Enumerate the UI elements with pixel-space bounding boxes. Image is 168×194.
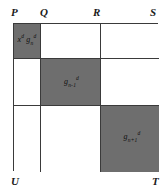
- grid-cell-r2c1: [14, 59, 41, 106]
- grid-diagram: P Q R S U T xdgnd gn-1d gn+1d: [0, 0, 168, 194]
- grid-cell-r1c3: [101, 24, 159, 59]
- vertex-label-u: U: [11, 176, 19, 187]
- cell-label-g-n-minus-1-d: gn-1d: [64, 78, 79, 86]
- cell-label-g-n-plus-1-d: gn+1d: [124, 133, 141, 141]
- grid-cell-r3c1: [14, 106, 41, 172]
- grid-cell-r1c2: [41, 24, 101, 59]
- vertex-label-r: R: [93, 7, 100, 18]
- label-sup-d: d: [21, 33, 24, 39]
- grid-cell-r2c3: [101, 59, 159, 106]
- label-sub-n: n: [31, 40, 34, 46]
- grid-cell-r1c1: xdgnd: [14, 24, 41, 59]
- vertex-label-t: T: [152, 176, 159, 187]
- label-sup-d2: d: [33, 33, 36, 39]
- vertex-label-q: Q: [40, 7, 48, 18]
- vertex-label-s: S: [150, 7, 156, 18]
- grid-cell-r3c2: [41, 106, 101, 172]
- block-grid: xdgnd gn-1d gn+1d: [13, 23, 158, 171]
- grid-cell-r2c2: gn-1d: [41, 59, 101, 106]
- label-sub-n-minus-1: n-1: [68, 82, 76, 88]
- label-sub-n-plus-1: n+1: [128, 137, 138, 143]
- grid-cell-r3c3: gn+1d: [101, 106, 159, 172]
- label-sup-d: d: [138, 130, 141, 136]
- cell-label-x-d-g-n-d: xdgnd: [18, 36, 37, 44]
- vertex-label-p: P: [11, 7, 18, 18]
- label-sup-d: d: [76, 75, 79, 81]
